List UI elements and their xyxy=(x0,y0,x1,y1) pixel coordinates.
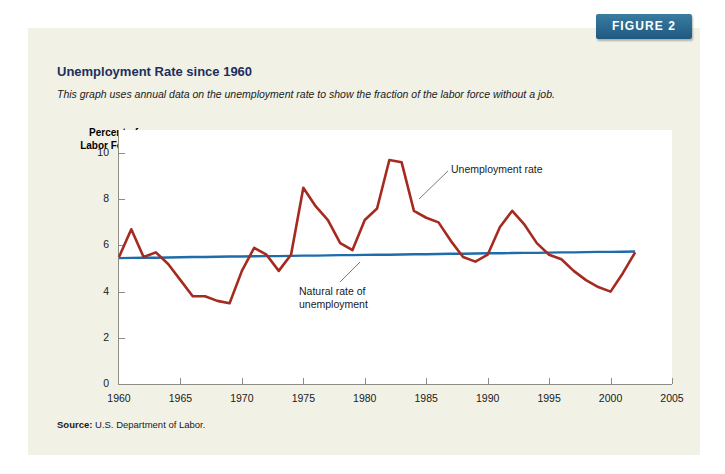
natural-rate-annotation-line-2: unemployment xyxy=(299,298,368,311)
x-tick-mark xyxy=(426,378,427,384)
x-tick-mark xyxy=(242,378,243,384)
y-tick-mark xyxy=(119,384,125,385)
y-tick-label: 0 xyxy=(79,377,109,389)
x-tick-label: 1960 xyxy=(97,392,141,404)
x-tick-mark xyxy=(303,378,304,384)
x-tick-mark xyxy=(180,378,181,384)
y-tick-label: 4 xyxy=(79,285,109,297)
y-tick-mark xyxy=(119,199,125,200)
x-tick-label: 1995 xyxy=(527,392,571,404)
page-title: Unemployment Rate since 1960 xyxy=(57,64,252,79)
y-tick-mark xyxy=(119,245,125,246)
y-tick-mark xyxy=(119,292,125,293)
source-note: Source: U.S. Department of Labor. xyxy=(57,419,205,430)
x-tick-label: 1975 xyxy=(281,392,325,404)
x-tick-mark xyxy=(611,378,612,384)
x-tick-mark xyxy=(672,378,673,384)
x-tick-label: 2000 xyxy=(589,392,633,404)
chart-subtitle: This graph uses annual data on the unemp… xyxy=(57,88,555,100)
figure-number-label: FIGURE 2 xyxy=(596,19,692,33)
x-tick-mark xyxy=(488,378,489,384)
natural-rate-annotation-label: Natural rate of unemployment xyxy=(299,285,368,311)
x-tick-label: 1965 xyxy=(158,392,202,404)
y-tick-label: 6 xyxy=(79,238,109,250)
y-tick-mark xyxy=(119,338,125,339)
figure-number-tab: FIGURE 2 xyxy=(596,14,692,39)
x-tick-label: 1990 xyxy=(466,392,510,404)
unemployment-annotation-label: Unemployment rate xyxy=(451,163,543,176)
y-tick-label: 2 xyxy=(79,331,109,343)
x-tick-label: 2005 xyxy=(650,392,694,404)
x-tick-mark xyxy=(365,378,366,384)
y-tick-label: 10 xyxy=(79,146,109,158)
x-tick-label: 1970 xyxy=(220,392,264,404)
y-tick-mark xyxy=(119,153,125,154)
source-prefix: Source: xyxy=(57,419,92,430)
figure-page: FIGURE 2 Unemployment Rate since 1960 Th… xyxy=(0,0,725,474)
x-tick-label: 1980 xyxy=(343,392,387,404)
y-tick-label: 8 xyxy=(79,192,109,204)
plot-frame xyxy=(118,130,672,385)
source-text: U.S. Department of Labor. xyxy=(95,419,205,430)
x-tick-mark xyxy=(549,378,550,384)
natural-rate-annotation-line-1: Natural rate of xyxy=(299,285,368,298)
x-tick-label: 1985 xyxy=(404,392,448,404)
